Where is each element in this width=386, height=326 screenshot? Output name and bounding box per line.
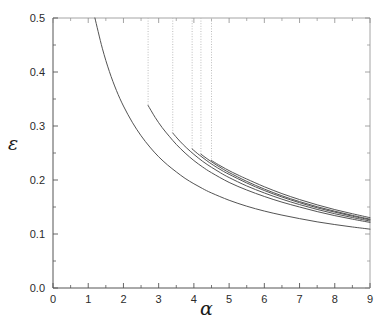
y-tick-label: 0.1: [30, 228, 45, 240]
y-tick-label: 0.3: [30, 120, 45, 132]
curve-3: [173, 133, 370, 221]
y-tick-label: 0.4: [30, 66, 45, 78]
x-tick-label: 0: [50, 293, 56, 305]
curve-2: [148, 105, 370, 222]
y-axis-label: ε: [8, 132, 18, 154]
chart-plot: 01234567890.00.10.20.30.40.5: [0, 0, 386, 326]
y-tick-label: 0.2: [30, 174, 45, 186]
curve-6: [212, 161, 371, 218]
curve-1: [95, 18, 370, 229]
curve-4: [192, 149, 370, 220]
x-tick-label: 2: [120, 293, 126, 305]
x-axis-label: α: [200, 297, 213, 319]
x-tick-label: 9: [367, 293, 373, 305]
x-tick-label: 5: [226, 293, 232, 305]
y-tick-label: 0.0: [30, 282, 45, 294]
x-tick-label: 1: [85, 293, 91, 305]
x-tick-label: 3: [156, 293, 162, 305]
x-tick-label: 6: [261, 293, 267, 305]
x-tick-label: 7: [296, 293, 302, 305]
curve-5: [201, 154, 370, 219]
x-tick-label: 4: [191, 293, 197, 305]
y-tick-label: 0.5: [30, 12, 45, 24]
x-tick-label: 8: [332, 293, 338, 305]
figure-canvas: 01234567890.00.10.20.30.40.5 ε α: [0, 0, 386, 326]
